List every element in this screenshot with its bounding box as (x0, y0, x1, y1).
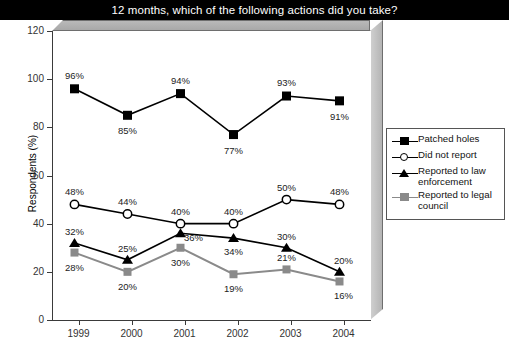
y-tick-label: 40 (18, 218, 44, 229)
data-label: 44% (118, 196, 137, 207)
y-tick-mark (47, 224, 52, 225)
data-point (69, 238, 80, 247)
data-label: 19% (224, 283, 243, 294)
x-tick-label: 1999 (56, 328, 102, 339)
x-tick-mark (291, 320, 292, 325)
data-label: 48% (65, 186, 84, 197)
x-tick-label: 2002 (215, 328, 261, 339)
data-point (335, 200, 343, 208)
legend-item[interactable]: Reported to legal council (392, 190, 500, 211)
data-label: 77% (224, 144, 243, 155)
y-axis-ticks: 120100806040200 (14, 20, 44, 347)
data-label: 20% (118, 280, 137, 291)
y-tick-mark (47, 272, 52, 273)
data-point (282, 195, 290, 203)
y-tick-mark (47, 31, 52, 32)
plot-3d-right-face (370, 20, 383, 320)
legend-item[interactable]: Did not report (392, 150, 500, 163)
x-tick-mark (185, 320, 186, 325)
legend-label: Did not report (418, 150, 477, 161)
series-layer (52, 31, 370, 320)
x-tick-mark (132, 320, 133, 325)
chart-legend: Patched holesDid not reportReported to l… (386, 128, 505, 220)
data-point (124, 268, 132, 276)
data-point (282, 92, 291, 101)
data-label: 40% (171, 205, 190, 216)
chart-title-banner: 12 months, which of the following action… (0, 0, 509, 20)
data-label: 32% (65, 225, 84, 236)
x-tick-label: 2004 (321, 328, 367, 339)
data-point (70, 84, 79, 93)
open-circle-marker (392, 151, 418, 163)
x-tick-mark (79, 320, 80, 325)
y-tick-label: 100 (18, 73, 44, 84)
data-point (230, 270, 238, 278)
data-label: 94% (171, 74, 190, 85)
x-tick-label: 2000 (109, 328, 155, 339)
data-point (283, 265, 291, 273)
filled-square-marker (392, 135, 418, 147)
data-point (177, 244, 185, 252)
y-tick-mark (47, 320, 52, 321)
plot-3d-top-face (52, 20, 370, 31)
data-label: 93% (277, 77, 296, 88)
data-label: 30% (171, 256, 190, 267)
data-label: 50% (277, 181, 296, 192)
data-point (176, 219, 184, 227)
y-tick-mark (47, 79, 52, 80)
data-label: 34% (224, 246, 243, 257)
x-tick-mark (238, 320, 239, 325)
series-line (75, 200, 340, 224)
series-line (75, 89, 340, 135)
legend-label: Patched holes (418, 134, 479, 145)
chart-screenshot: 12 months, which of the following action… (0, 0, 509, 347)
data-label: 48% (330, 186, 349, 197)
data-label: 16% (334, 290, 353, 301)
series-line (75, 248, 340, 282)
data-label: 96% (65, 69, 84, 80)
data-label: 28% (65, 261, 84, 272)
y-tick-mark (47, 127, 52, 128)
data-point (229, 219, 237, 227)
data-label: 21% (277, 252, 296, 263)
data-point (229, 130, 238, 139)
legend-item[interactable]: Reported to law enforcement (392, 166, 500, 187)
y-tick-label: 20 (18, 266, 44, 277)
data-point (335, 96, 344, 105)
data-label: 20% (334, 254, 353, 265)
data-label: 40% (224, 205, 243, 216)
data-point (71, 249, 79, 257)
x-tick-label: 2003 (268, 328, 314, 339)
data-label: 25% (118, 242, 137, 253)
chart-area: Respondents (%) 120100806040200 96%85%94… (0, 20, 509, 347)
y-tick-label: 80 (18, 121, 44, 132)
x-tick-label: 2001 (162, 328, 208, 339)
data-point (123, 111, 132, 120)
data-point (176, 89, 185, 98)
data-label: 36% (184, 232, 203, 243)
y-tick-label: 60 (18, 170, 44, 181)
data-point (336, 277, 344, 285)
data-point (123, 210, 131, 218)
legend-item[interactable]: Patched holes (392, 134, 500, 147)
x-tick-mark (344, 320, 345, 325)
legend-label: Reported to law enforcement (418, 166, 500, 187)
y-tick-mark (47, 176, 52, 177)
data-label: 85% (118, 125, 137, 136)
data-label: 30% (277, 230, 296, 241)
data-point (70, 200, 78, 208)
data-label: 91% (330, 110, 349, 121)
data-point (334, 267, 345, 276)
legend-label: Reported to legal council (418, 190, 500, 211)
gray-square-marker (392, 191, 418, 203)
y-tick-label: 120 (18, 25, 44, 36)
y-tick-label: 0 (18, 314, 44, 325)
filled-triangle-marker (392, 167, 418, 179)
